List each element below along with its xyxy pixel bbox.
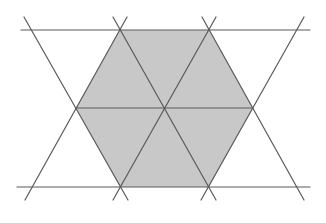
diagram-canvas (0, 0, 326, 223)
hexagon-diagram (0, 0, 326, 223)
